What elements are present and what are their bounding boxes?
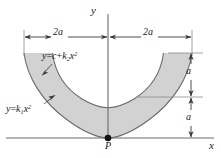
eq-inner-x-exponent: 2 [28, 103, 31, 110]
dimension-label-2a-left: 2a [53, 27, 63, 37]
dimension-label-2a-right: 2a [143, 27, 153, 37]
figure-canvas [0, 0, 221, 158]
equation-label-inner-parabola: y=k1x2 [6, 104, 31, 115]
dimension-label-a-top: a [186, 66, 191, 76]
y-axis-label: y [91, 5, 96, 16]
point-p-label: P [105, 141, 111, 151]
dimension-label-a-bottom: a [186, 112, 191, 122]
parabola-region-figure: y x 2a 2a a a y=c+k2x2 y=k1x2 P [0, 0, 221, 158]
equation-label-outer-parabola: y=c+k2x2 [42, 51, 77, 62]
x-axis-label: x [209, 140, 214, 151]
eq-outer-x-exponent: 2 [74, 50, 77, 57]
